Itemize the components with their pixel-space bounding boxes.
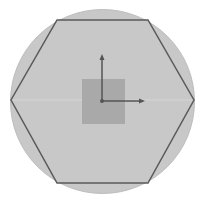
sketch-canvas[interactable] [0, 0, 201, 205]
origin-point-icon [100, 99, 104, 103]
cad-viewport[interactable] [0, 0, 201, 205]
